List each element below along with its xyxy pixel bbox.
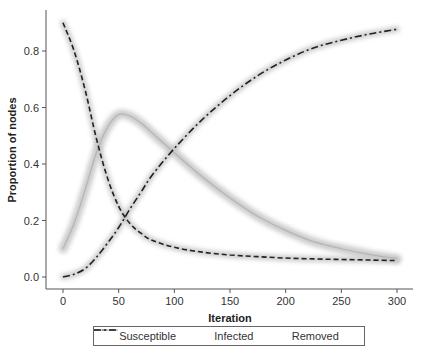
x-tick-label: 300 bbox=[388, 295, 406, 307]
y-tick-label: 0.6 bbox=[24, 102, 39, 114]
band-removed bbox=[63, 29, 397, 277]
plot-area: 0.00.20.40.60.8050100150200250300 Iterat… bbox=[0, 0, 423, 358]
y-tick-label: 0.2 bbox=[24, 215, 39, 227]
legend-label: Infected bbox=[214, 330, 253, 342]
sir-chart: 0.00.20.40.60.8050100150200250300 Iterat… bbox=[0, 0, 423, 358]
x-tick-label: 250 bbox=[332, 295, 350, 307]
legend: Susceptible Infected Removed bbox=[93, 326, 365, 346]
line-susceptible bbox=[63, 23, 397, 261]
band-susceptible bbox=[63, 23, 397, 261]
y-tick-label: 0.0 bbox=[24, 271, 39, 283]
dashdot-line-icon bbox=[94, 327, 118, 333]
y-axis-title: Proportion of nodes bbox=[6, 97, 18, 202]
simulation-bands bbox=[63, 23, 397, 277]
legend-item-removed: Removed bbox=[292, 330, 339, 342]
x-tick-label: 50 bbox=[113, 295, 125, 307]
x-axis-title: Iteration bbox=[208, 312, 252, 324]
legend-item-infected: Infected bbox=[214, 330, 253, 342]
legend-label: Removed bbox=[292, 330, 339, 342]
y-tick-label: 0.4 bbox=[24, 158, 39, 170]
legend-item-susceptible: Susceptible bbox=[119, 330, 176, 342]
legend-label: Susceptible bbox=[119, 330, 176, 342]
x-tick-label: 200 bbox=[276, 295, 294, 307]
y-tick-label: 0.8 bbox=[24, 45, 39, 57]
x-tick-label: 150 bbox=[221, 295, 239, 307]
x-tick-label: 100 bbox=[165, 295, 183, 307]
x-tick-label: 0 bbox=[60, 295, 66, 307]
